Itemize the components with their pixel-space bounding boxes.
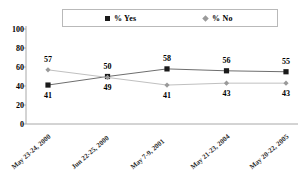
data-label-yes-0: 41 xyxy=(37,92,59,100)
y-tick-label-40: 40 xyxy=(2,83,24,91)
y-tick-label-60: 60 xyxy=(2,64,24,72)
data-point-marker-square xyxy=(283,69,288,74)
data-label-no-3: 43 xyxy=(216,90,238,98)
data-label-yes-2: 58 xyxy=(156,55,178,63)
data-label-yes-1: 50 xyxy=(97,63,119,71)
data-point-marker-square xyxy=(224,68,229,73)
data-label-no-1: 49 xyxy=(97,84,119,92)
y-tick-label-100: 100 xyxy=(2,26,24,34)
data-point-marker-square xyxy=(45,82,50,87)
y-tick-label-20: 20 xyxy=(2,102,24,110)
data-point-marker-diamond xyxy=(45,67,50,72)
y-tick-label-0: 0 xyxy=(2,121,24,129)
data-point-marker-diamond xyxy=(283,81,288,86)
data-label-yes-3: 56 xyxy=(216,57,238,65)
data-label-no-4: 43 xyxy=(275,90,297,98)
data-label-yes-4: 55 xyxy=(275,58,297,66)
data-point-marker-square xyxy=(164,66,169,71)
data-label-no-2: 41 xyxy=(156,92,178,100)
data-label-no-0: 57 xyxy=(37,56,59,64)
data-point-marker-diamond xyxy=(164,82,169,87)
chart-container: % Yes % No 100 80 60 40 20 0 41505856555… xyxy=(0,0,302,183)
data-point-marker-diamond xyxy=(224,81,229,86)
y-tick-label-80: 80 xyxy=(2,45,24,53)
